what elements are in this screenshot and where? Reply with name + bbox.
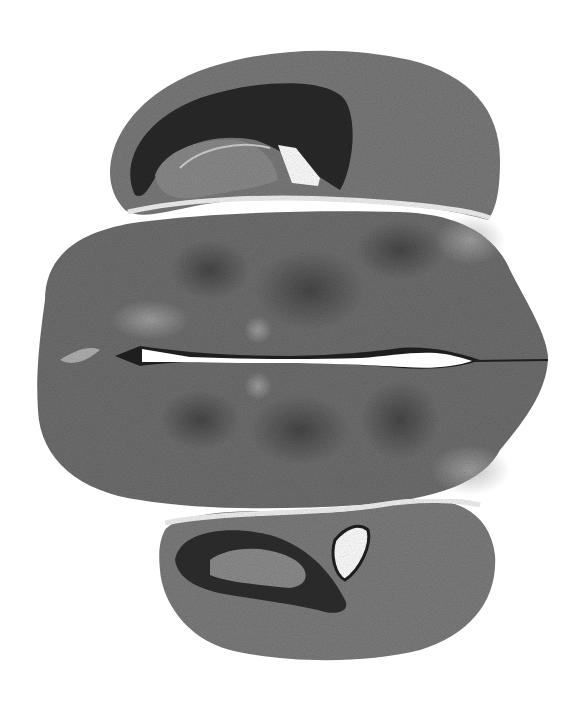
brain-section-image — [0, 0, 585, 703]
upper-hippocampal-lobe — [110, 51, 500, 220]
lower-hippocampal-lobe — [159, 500, 495, 660]
histology-figure — [0, 0, 585, 703]
